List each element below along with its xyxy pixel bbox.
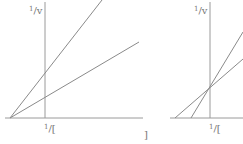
right-y-axis-label: 1/v: [194, 6, 208, 16]
right-y-label-den: v: [202, 5, 208, 16]
right-plot: [170, 2, 243, 118]
left-y-label-num: 1: [29, 5, 33, 13]
right-x-label-num: 1: [209, 123, 213, 131]
left-line-shallow: [10, 42, 139, 118]
right-x-label-den: [: [217, 123, 221, 134]
left-x-axis-end-bracket: ]: [144, 130, 148, 140]
left-y-axis-label: 1/v: [29, 6, 43, 16]
left-line-steep: [10, 0, 102, 118]
figure-canvas: [0, 0, 243, 144]
right-x-axis-label: 1/[: [209, 124, 221, 134]
left-x-label-num: 1: [44, 123, 48, 131]
left-x-axis-label: 1/[: [44, 124, 56, 134]
left-plot: [5, 0, 143, 118]
left-y-label-den: v: [37, 5, 43, 16]
right-line-b: [191, 32, 243, 118]
right-y-label-num: 1: [194, 5, 198, 13]
left-x-label-den: [: [52, 123, 56, 134]
